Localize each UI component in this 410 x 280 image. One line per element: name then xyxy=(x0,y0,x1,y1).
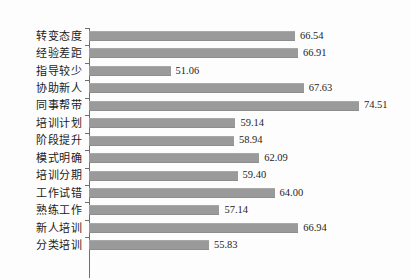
bar xyxy=(89,136,234,146)
category-label: 培训分期 xyxy=(36,170,82,181)
category-label: 经验差距 xyxy=(36,48,82,59)
bar xyxy=(89,31,295,41)
axis-tick xyxy=(85,202,89,203)
category-label: 熟练工作 xyxy=(36,205,82,216)
bar-row: 分类培训55.83 xyxy=(89,237,399,254)
bar xyxy=(89,83,304,93)
bar xyxy=(89,101,359,111)
bar-value-label: 74.51 xyxy=(364,101,388,112)
bar-row: 模式明确62.09 xyxy=(89,150,399,167)
bar-value-label: 58.94 xyxy=(239,136,263,147)
bar-row: 阶段提升58.94 xyxy=(89,133,399,150)
bar xyxy=(89,171,238,181)
bar-row: 指导较少51.06 xyxy=(89,63,399,80)
axis-tick xyxy=(85,115,89,116)
bar-value-label: 55.83 xyxy=(214,240,238,251)
category-label: 新人培训 xyxy=(36,223,82,234)
bar-row: 协助新人67.63 xyxy=(89,80,399,97)
bar xyxy=(89,240,209,250)
bar-value-label: 66.94 xyxy=(303,223,327,234)
axis-tick xyxy=(85,220,89,221)
category-label: 同事帮带 xyxy=(36,101,82,112)
axis-tick xyxy=(85,80,89,81)
bar xyxy=(89,223,298,233)
bar-value-label: 66.54 xyxy=(300,31,324,41)
bar-row: 培训计划59.14 xyxy=(89,115,399,132)
bar-value-label: 62.09 xyxy=(264,153,288,164)
category-label: 培训计划 xyxy=(36,118,82,129)
category-label: 分类培训 xyxy=(36,240,82,251)
axis-tick xyxy=(85,28,89,29)
bar-value-label: 64.00 xyxy=(280,188,304,199)
category-label: 阶段提升 xyxy=(36,136,82,147)
bar-row: 同事帮带74.51 xyxy=(89,98,399,115)
bar-row: 培训分期59.40 xyxy=(89,168,399,185)
plot-area: 转变态度66.54经验差距66.91指导较少51.06协助新人67.63同事帮带… xyxy=(89,28,399,278)
bar-value-label: 51.06 xyxy=(176,66,200,77)
axis-tick xyxy=(85,168,89,169)
axis-tick xyxy=(85,237,89,238)
bar-value-label: 59.40 xyxy=(243,170,267,181)
bar xyxy=(89,118,235,128)
bar-row: 工作试错64.00 xyxy=(89,185,399,202)
category-label: 协助新人 xyxy=(36,83,82,94)
bar-value-label: 59.14 xyxy=(240,118,264,129)
bar-chart: 转变态度66.54经验差距66.91指导较少51.06协助新人67.63同事帮带… xyxy=(0,0,410,280)
axis-tick xyxy=(85,63,89,64)
axis-tick xyxy=(85,133,89,134)
bar xyxy=(89,153,259,163)
bar xyxy=(89,66,171,76)
category-label: 转变态度 xyxy=(36,31,82,42)
bar-value-label: 57.14 xyxy=(224,205,248,216)
axis-tick xyxy=(85,98,89,99)
bar xyxy=(89,48,298,58)
bar xyxy=(89,188,275,198)
bar-row: 转变态度66.54 xyxy=(89,28,399,45)
bar-row: 熟练工作57.14 xyxy=(89,202,399,219)
category-label: 工作试错 xyxy=(36,188,82,199)
axis-tick xyxy=(85,185,89,186)
axis-tick xyxy=(85,45,89,46)
bar-row: 经验差距66.91 xyxy=(89,45,399,62)
bar xyxy=(89,205,219,215)
bar-value-label: 67.63 xyxy=(309,83,333,94)
bar-value-label: 66.91 xyxy=(303,48,327,59)
category-label: 模式明确 xyxy=(36,153,82,164)
bar-row: 新人培训66.94 xyxy=(89,220,399,237)
axis-tick xyxy=(85,150,89,151)
category-label: 指导较少 xyxy=(36,66,82,77)
